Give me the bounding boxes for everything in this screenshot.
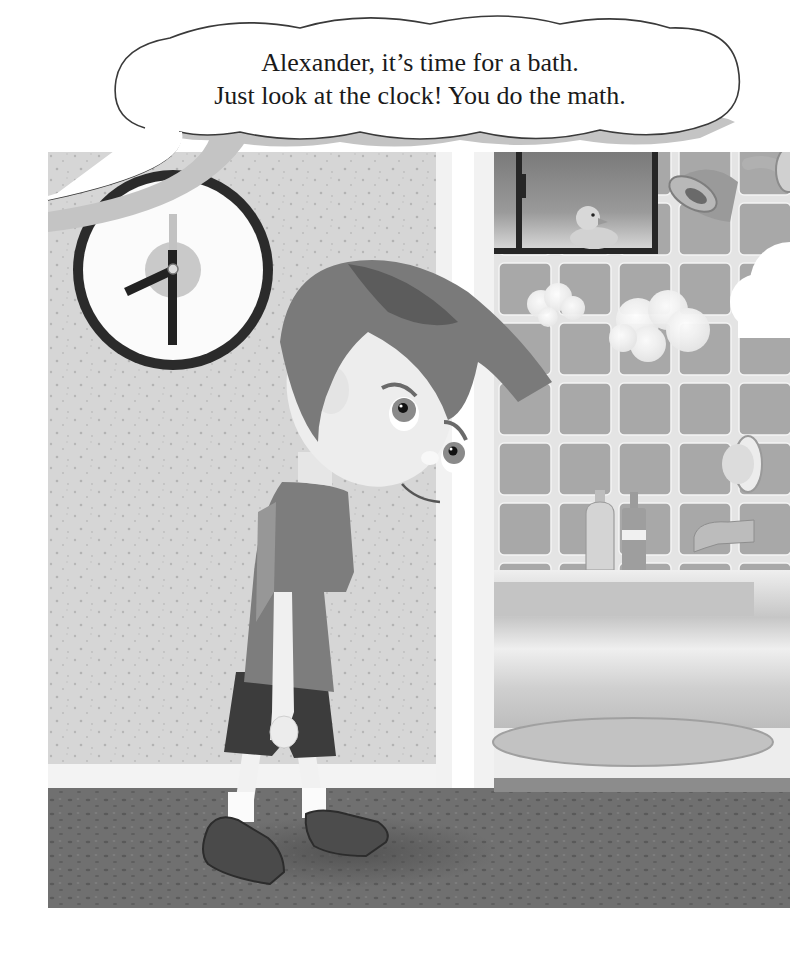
book-page: Alexander, it’s time for a bath. Just lo… [0,0,809,957]
speech-bubble-text: Alexander, it’s time for a bath. Just lo… [120,46,720,112]
speech-line-1: Alexander, it’s time for a bath. [120,46,720,79]
illustration-panel [48,152,790,908]
bath-mat [493,718,773,766]
nose [421,451,439,465]
speech-line-2: Just look at the clock! You do the math. [120,79,720,112]
speech-bubble: Alexander, it’s time for a bath. Just lo… [0,0,809,240]
